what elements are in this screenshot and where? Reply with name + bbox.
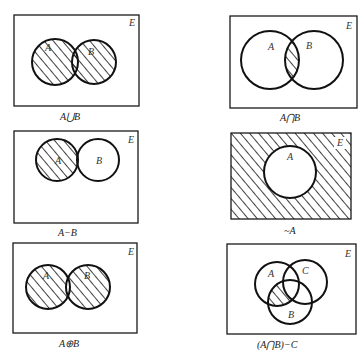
- panel-symmetric-difference: E A B A⊕B: [13, 243, 137, 349]
- universe-label: E: [127, 134, 134, 145]
- universe-frame: [14, 131, 138, 223]
- set-a-label: A: [267, 41, 275, 52]
- panel-intersection-minus-c: E A C B (A⋂B)−C: [227, 244, 356, 351]
- set-b-label: B: [88, 46, 94, 57]
- universe-label: E: [336, 137, 343, 148]
- set-b-label: B: [288, 309, 294, 320]
- caption-union: A⋃B: [59, 111, 80, 122]
- set-a-label: A: [42, 270, 50, 281]
- set-a-label: A: [44, 42, 52, 53]
- universe-label: E: [345, 20, 352, 31]
- set-b-label: B: [306, 40, 312, 51]
- set-a-label: A: [54, 155, 62, 166]
- set-b-label: B: [96, 155, 102, 166]
- venn-diagram-figure: E A B A⋃B E A B A⋂B E A B A−B E A: [0, 0, 364, 363]
- caption-difference: A−B: [57, 227, 77, 238]
- set-a-label: A: [286, 151, 294, 162]
- set-a-label: A: [267, 268, 275, 279]
- set-c-label: C: [302, 265, 309, 276]
- caption-intersection: A⋂B: [279, 112, 300, 123]
- caption-intersection-minus-c: (A⋂B)−C: [257, 339, 298, 351]
- universe-label: E: [344, 248, 351, 259]
- panel-difference: E A B A−B: [14, 131, 138, 238]
- universe-label: E: [127, 246, 134, 257]
- caption-symmetric-difference: A⊕B: [58, 338, 79, 349]
- panel-union: E A B A⋃B: [14, 15, 139, 122]
- panel-complement: E A ~A: [231, 133, 351, 236]
- panel-intersection: E A B A⋂B: [230, 16, 357, 123]
- universe-label: E: [128, 17, 135, 28]
- caption-complement: ~A: [284, 225, 296, 236]
- set-b-label: B: [84, 270, 90, 281]
